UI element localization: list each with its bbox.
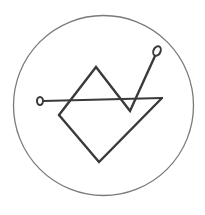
horizontal-line xyxy=(43,98,162,101)
sigil-drawing xyxy=(0,0,205,215)
sigil-lower-path xyxy=(59,98,162,162)
top-right-terminal-circle xyxy=(152,45,163,57)
sigil-upper-path xyxy=(59,56,155,115)
left-terminal-circle xyxy=(37,97,43,105)
